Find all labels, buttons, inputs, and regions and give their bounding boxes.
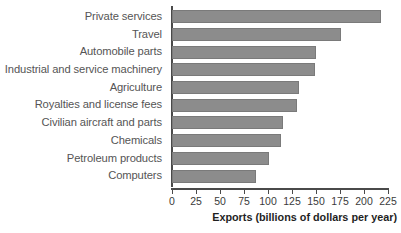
x-axis-tick (316, 189, 317, 194)
x-axis-title: Exports (billions of dollars per year) (0, 211, 401, 223)
x-axis-tick-label: 125 (283, 195, 301, 207)
x-axis-tick-label: 225 (379, 195, 397, 207)
x-axis-tick (388, 189, 389, 194)
bars-group (172, 8, 388, 185)
bar-row (172, 79, 388, 97)
x-axis-tick-label: 75 (238, 195, 250, 207)
category-label: Travel (0, 26, 168, 44)
bar (172, 46, 316, 59)
bar (172, 134, 281, 147)
bar (172, 170, 256, 183)
x-axis-tick-labels: 0255075100125150175200225 (172, 195, 388, 209)
category-label: Industrial and service machinery (0, 61, 168, 79)
bar-row (172, 61, 388, 79)
x-axis-tick-label: 50 (214, 195, 226, 207)
x-axis-tick-label: 0 (169, 195, 175, 207)
bar-row (172, 150, 388, 168)
bar (172, 28, 341, 41)
category-label: Civilian aircraft and parts (0, 114, 168, 132)
x-axis-tick-label: 150 (307, 195, 325, 207)
x-axis-tick (220, 189, 221, 194)
bar-chart-figure: Private services Travel Automobile parts… (0, 0, 401, 233)
x-axis-tick-label: 25 (190, 195, 202, 207)
x-axis-tick (340, 189, 341, 194)
category-label: Chemicals (0, 132, 168, 150)
bar-row (172, 167, 388, 185)
category-label: Petroleum products (0, 150, 168, 168)
category-label: Private services (0, 8, 168, 26)
bar (172, 116, 283, 129)
bar-row (172, 132, 388, 150)
x-axis-tick (244, 189, 245, 194)
plot-area (172, 8, 388, 185)
bar (172, 99, 297, 112)
x-axis-tick-label: 100 (259, 195, 277, 207)
category-label: Royalties and license fees (0, 96, 168, 114)
x-axis-tick (196, 189, 197, 194)
x-axis-tick (364, 189, 365, 194)
category-label: Agriculture (0, 79, 168, 97)
category-label: Automobile parts (0, 43, 168, 61)
x-axis-tick (292, 189, 293, 194)
bar-row (172, 26, 388, 44)
category-axis-labels: Private services Travel Automobile parts… (0, 8, 168, 185)
x-axis-tick-label: 175 (331, 195, 349, 207)
x-axis-tick (172, 189, 173, 194)
bar (172, 152, 269, 165)
bar-row (172, 114, 388, 132)
x-axis-tick (268, 189, 269, 194)
bar (172, 81, 299, 94)
bar-row (172, 96, 388, 114)
bar (172, 10, 381, 23)
x-axis-tick-marks (172, 189, 388, 194)
x-axis-tick-label: 200 (355, 195, 373, 207)
bar-row (172, 8, 388, 26)
bar-row (172, 43, 388, 61)
category-label: Computers (0, 167, 168, 185)
bar (172, 63, 315, 76)
